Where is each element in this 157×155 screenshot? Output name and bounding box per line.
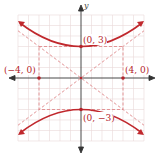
point-right (121, 76, 125, 80)
label-bottom-vertex: (0, −3) (83, 113, 115, 123)
x-axis-right-arrow-icon (149, 76, 155, 81)
y-axis-down-arrow-icon (79, 147, 84, 153)
origin (80, 77, 82, 79)
vertex-bottom (79, 108, 83, 112)
label-top-vertex: (0, 3) (83, 35, 107, 45)
y-axis-up-arrow-icon (79, 5, 84, 11)
hyperbola-chart: y (0, 3) (0, −3) (−4, 0) (4, 0) (0, 0, 157, 155)
point-left (37, 76, 41, 80)
vertex-top (79, 45, 83, 49)
y-axis-label: y (83, 1, 89, 10)
label-right-point: (4, 0) (125, 65, 149, 75)
label-left-point: (−4, 0) (4, 65, 36, 75)
x-axis-left-arrow-icon (9, 76, 15, 81)
